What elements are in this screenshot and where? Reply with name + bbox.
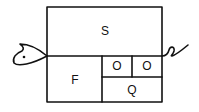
cell-s-label: S <box>101 24 109 38</box>
cell-q-label: Q <box>127 83 136 97</box>
fish-grid-diagram: S F O O Q <box>0 0 199 112</box>
cell-f-label: F <box>71 73 78 87</box>
outer-box <box>47 7 162 102</box>
tail-icon <box>162 45 188 56</box>
fish-eye-icon <box>23 56 26 59</box>
cell-o2-label: O <box>142 59 151 73</box>
fish-head-icon <box>13 44 47 65</box>
cell-o1-label: O <box>112 59 121 73</box>
